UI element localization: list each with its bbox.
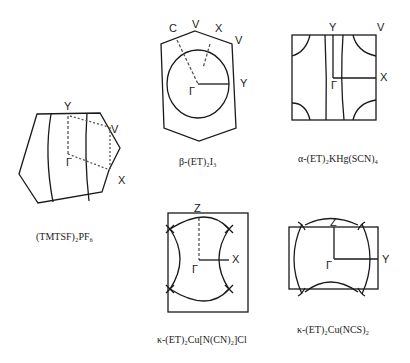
alpha-caption: α-(ET)₂KHg(SCN)₄: [298, 154, 378, 164]
point-label: Z: [330, 217, 337, 228]
beta-caption: β-(ET)₂I₃: [179, 157, 217, 167]
point-label: V: [235, 35, 242, 46]
point-label: Γ: [66, 157, 72, 168]
point-label: Z: [194, 203, 201, 214]
point-label: Γ: [192, 264, 198, 275]
point-label: Y: [382, 254, 389, 265]
point-label: Γ: [326, 260, 332, 271]
point-label: V: [192, 19, 199, 30]
point-label: C: [169, 23, 177, 34]
kappa-cl-caption: κ-(ET)₂Cu[N(CN)₂]Cl: [157, 335, 247, 345]
kappa-ncs-brillouin-zone: [289, 219, 378, 297]
point-label: X: [232, 254, 239, 265]
point-label: Y: [240, 78, 247, 89]
point-label: X: [215, 23, 222, 34]
point-label: X: [118, 175, 125, 186]
point-label: Γ: [189, 86, 195, 97]
beta-brillouin-zone: [161, 31, 236, 141]
point-label: X: [380, 72, 387, 83]
kappa-ncs-caption: κ-(ET)₂Cu(NCS)₂: [297, 325, 369, 335]
point-label: V: [111, 124, 118, 135]
tmtsf-caption: (TMTSF)₂PF₆: [36, 232, 93, 242]
point-label: V: [377, 22, 384, 33]
point-label: Y: [329, 22, 336, 33]
point-label: Y: [64, 101, 71, 112]
fermi-surface-diagrams: [0, 0, 410, 363]
alpha-brillouin-zone: [292, 35, 376, 120]
point-label: Γ: [331, 80, 337, 91]
